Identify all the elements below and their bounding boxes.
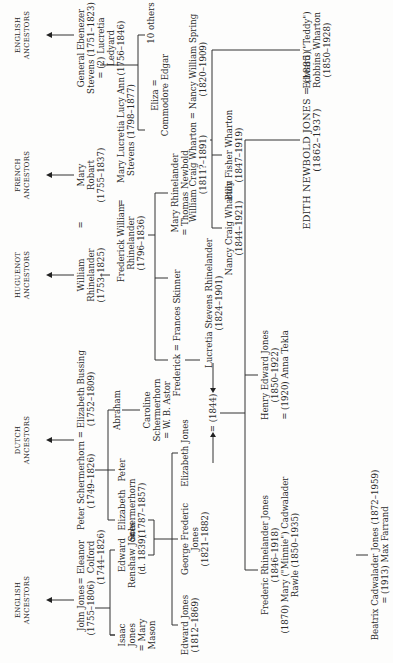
person-ten-others: 10 others <box>146 2 156 43</box>
person-william-craig-wharton: William Craig Wharton = Nancy William Sp… <box>188 14 208 222</box>
person-caroline-schermerhorn: Caroline Schermerhorn = W. B. Astor <box>142 378 172 441</box>
marriage-sign: = <box>116 199 126 206</box>
person-eliza: Eliza = Commodore Edgar <box>150 54 170 136</box>
person-mary-robart: Mary Robart (1755–1837) <box>76 148 106 203</box>
person-frederick-frances-skinner: Frederick = Frances Skinner <box>172 269 182 396</box>
person-lucretia-stevens-rhinelander: Lucretia Stevens Rhinelander (1824–1901) <box>204 238 224 368</box>
person-beatrix-cadwalader-jones: Beatrix Cadwalader Jones (1872–1959) = (… <box>370 470 390 641</box>
marriage-sign: = <box>76 221 86 228</box>
person-william-rhinelander: William Rhinelander (1753–1825) <box>76 248 106 303</box>
person-mary-rhinelander: Mary Rhinelander = Thomas Newbold <box>170 150 190 236</box>
person-frederic-rhinelander-jones: Frederic Rhinelander Jones (1846–1918) (… <box>260 477 300 634</box>
family-tree-diagram: ENGLISH ANCESTORS DUTCH ANCESTORS HUGUEN… <box>0 0 393 663</box>
person-peter-schermerhorn: Peter Schermerhorn = Elizabeth Bussing (… <box>76 350 96 530</box>
person-frederick-william-rhinelander: Frederick William Rhinelander (1796–1836… <box>116 204 146 282</box>
person-abraham: Abraham <box>112 390 122 430</box>
person-henry-edward-jones: Henry Edward Jones (1850–1922) = (1920) … <box>260 330 290 420</box>
person-isaac-jones: Isaac Jones = Mary Mason <box>117 619 157 652</box>
ancestors-huguenot: HUGUENOT ANCESTORS <box>14 251 31 299</box>
person-billy-fisher-wharton: Billy Fisher Wharton (1847–1919) <box>224 110 244 201</box>
person-mary-lucretia-stevens: Mary Lucretia Lucy Ann Stevens (1798–187… <box>116 77 136 183</box>
person-peter: Peter <box>117 458 127 481</box>
person-george-frederic-jones: George Frederic Jones (1821–1882) <box>180 503 210 575</box>
person-eleanor-colford: Eleanor Colford (1744–1826) <box>76 530 106 585</box>
person-edith-newbold-jones: EDITH NEWBOLD JONES = (1885) (1862–1937) <box>302 50 322 229</box>
ancestors-french: FRENCH ANCESTORS <box>14 151 31 199</box>
ancestors-dutch: DUTCH ANCESTORS <box>14 416 31 464</box>
ancestors-english-left: ENGLISH ANCESTORS <box>14 576 31 624</box>
ancestors-english-right: ENGLISH ANCESTORS <box>14 11 31 59</box>
person-edward-jones: Edward Jones (1812–1869) <box>180 595 200 655</box>
marriage-1844: = (1844) <box>208 394 218 433</box>
person-john-jones: John Jones (1755–1806) <box>76 581 96 636</box>
person-elizabeth-jones: Elizabeth Jones <box>180 419 190 486</box>
page: ENGLISH ANCESTORS DUTCH ANCESTORS HUGUEN… <box>0 0 393 663</box>
person-elizabeth-schermerhorn: Elizabeth Schermerhorn (1787–1857) <box>117 478 147 541</box>
